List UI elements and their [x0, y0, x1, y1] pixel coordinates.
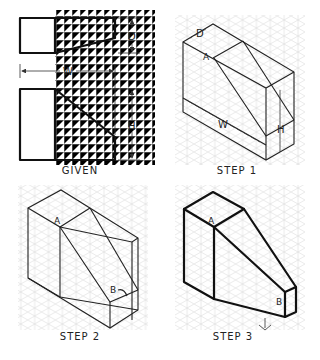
isometric-grid [175, 15, 305, 165]
panel-step3: B A STEP 3 [175, 185, 305, 342]
caption-step2: STEP 2 [60, 331, 100, 342]
panel-given: D W H GIVEN [20, 10, 155, 176]
caption-given: GIVEN [62, 165, 98, 176]
step1-width-label: W [218, 119, 228, 130]
panel-step1: D W H A STEP 1 [175, 15, 305, 176]
height-label: H [128, 121, 136, 132]
step1-height-label: H [277, 124, 285, 135]
step1-depth-label: D [196, 28, 204, 39]
panel-step2: A B STEP 2 [18, 185, 148, 342]
width-label: W [63, 66, 73, 77]
square-grid [55, 10, 155, 165]
caption-step3: STEP 3 [213, 331, 253, 342]
point-a-label: A [208, 216, 215, 226]
point-a-label: A [54, 216, 61, 226]
point-b-label: B [110, 285, 116, 295]
caption-step1: STEP 1 [217, 165, 257, 176]
isometric-construction-figure: D W H GIVEN D [0, 0, 320, 360]
point-b-label: B [276, 297, 282, 307]
point-a-label: A [203, 52, 210, 62]
depth-label: D [128, 31, 136, 42]
